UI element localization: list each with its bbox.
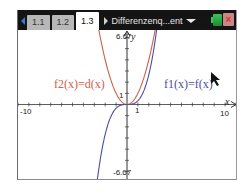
x-axis-label: x <box>224 96 230 107</box>
calculator-screen: 6.67 y -6.67 -10 10 x 1 1 f2(x)=d(x) f1(… <box>17 10 237 180</box>
tab-1-2[interactable]: 1.2 <box>52 15 75 30</box>
tab-1-1[interactable]: 1.1 <box>27 15 50 30</box>
xmin-label: -10 <box>20 107 32 116</box>
battery-icon <box>213 14 222 26</box>
y-axis-label: y <box>130 31 136 42</box>
graph-area[interactable]: 6.67 y -6.67 -10 10 x 1 1 f2(x)=d(x) f1(… <box>18 10 236 179</box>
scroll-left-icon[interactable] <box>21 17 25 25</box>
ymax-label: 6.67 <box>116 32 132 41</box>
chevron-down-icon[interactable] <box>186 19 196 23</box>
function-label-f2[interactable]: f2(x)=d(x) <box>54 77 105 91</box>
y-unit-label: 1 <box>119 91 124 100</box>
scroll-right-icon[interactable] <box>104 17 108 25</box>
x-unit-label: 1 <box>135 106 140 115</box>
close-button[interactable]: × <box>223 13 234 26</box>
ymin-label: -6.67 <box>113 168 132 177</box>
xmax-label: 10 <box>220 109 229 118</box>
document-title[interactable]: Differenzenq...ent <box>112 12 183 30</box>
function-label-f1[interactable]: f1(x)=f(x) <box>164 77 213 91</box>
tab-1-3[interactable]: 1.3 <box>76 12 99 30</box>
top-bar: 1.1 1.2 1.3 Differenzenq...ent × <box>18 10 236 30</box>
